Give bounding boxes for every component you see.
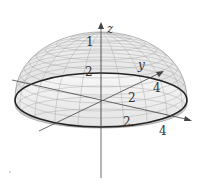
z-axis-label: z [106, 22, 114, 36]
y-tick-2: 2 [128, 91, 136, 105]
y-tick-4: 4 [153, 81, 161, 95]
stray-dot [9, 171, 11, 173]
z-tick-2: 2 [85, 65, 93, 79]
z-axis-arrow-icon [98, 22, 104, 29]
3d-dome-plot: z y 1 2 4 2 2 4 [0, 0, 201, 193]
x-tick-2: 2 [123, 115, 131, 129]
y-axis-label: y [137, 58, 145, 72]
x-axis-arrow-icon [184, 116, 192, 121]
z-tick-1: 1 [86, 35, 94, 49]
x-tick-4: 4 [159, 124, 167, 138]
